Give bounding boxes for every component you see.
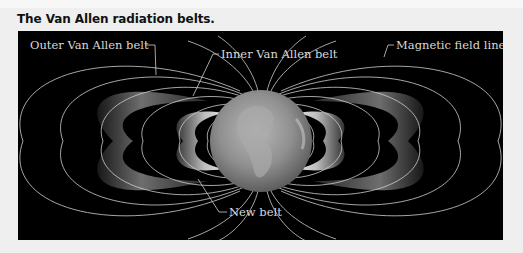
label-field-lines: Magnetic field lines xyxy=(384,38,503,57)
outer-belt-label: Outer Van Allen belt xyxy=(30,38,149,52)
inner-belt-label: Inner Van Allen belt xyxy=(221,47,338,61)
figure-title: The Van Allen radiation belts. xyxy=(17,12,215,26)
label-outer-belt: Outer Van Allen belt xyxy=(30,38,156,75)
new-belt-label: New belt xyxy=(229,205,282,219)
page-top-band xyxy=(0,0,523,8)
van-allen-diagram: Outer Van Allen belt Inner Van Allen bel… xyxy=(18,31,503,240)
earth-globe xyxy=(210,90,312,192)
field-lines-label: Magnetic field lines xyxy=(396,38,503,52)
